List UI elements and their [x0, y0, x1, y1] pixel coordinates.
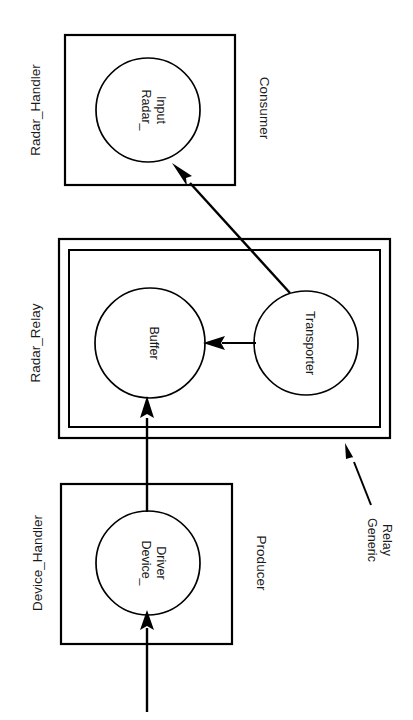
device-handler-label: Device_Handler	[30, 514, 45, 611]
annotation-generic-relay: Generic Relay	[345, 443, 394, 562]
consumer-role-label: Consumer	[257, 77, 272, 140]
edge-driver-buffer-arrowhead	[140, 396, 154, 418]
edge-external-arrowhead	[140, 610, 154, 630]
diagram-canvas: Radar_ Input Radar_Handler Consumer Buff…	[0, 0, 413, 720]
edge-device-driver-to-buffer	[140, 396, 154, 512]
edge-transporter-to-buffer	[203, 336, 256, 350]
producer-role-label: Producer	[254, 536, 269, 591]
generic-relay-label-line2: Relay	[380, 524, 394, 557]
radar-input-label-line2: Input	[154, 96, 168, 124]
group-radar-handler: Radar_ Input Radar_Handler Consumer	[28, 35, 272, 185]
device-driver-label-line1: Device_	[139, 540, 153, 586]
generic-relay-leader-line	[354, 462, 371, 505]
radar-relay-outer-box	[59, 239, 390, 438]
buffer-label: Buffer	[147, 326, 161, 359]
edge-transporter-to-radar-input	[172, 163, 290, 293]
edge-external-to-device-driver	[140, 610, 154, 712]
radar-input-label-line1: Radar_	[139, 90, 153, 132]
radar-relay-label: Radar_Relay	[28, 303, 43, 382]
edge-transporter-radar-arrowhead	[172, 163, 192, 186]
group-radar-relay: Buffer Transporter Radar_Relay	[28, 239, 390, 438]
device-driver-label-line2: Driver	[154, 546, 168, 579]
radar-handler-label: Radar_Handler	[28, 64, 43, 156]
transporter-label: Transporter	[303, 311, 317, 375]
generic-relay-arrowhead	[345, 443, 357, 464]
generic-relay-label-line1: Generic	[365, 518, 379, 562]
block-diagram-svg: Radar_ Input Radar_Handler Consumer Buff…	[0, 0, 413, 720]
edge-transporter-buffer-arrowhead	[203, 336, 225, 350]
radar-relay-inner-box	[69, 250, 380, 427]
